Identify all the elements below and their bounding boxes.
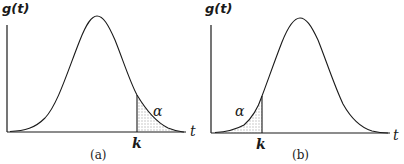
figure: g(t) t k α (a) g(t) t k α (b) [0,0,404,164]
y-axis-label: g(t) [205,1,232,16]
panel-a: g(t) t k α (a) [2,1,196,162]
alpha-label: α [235,103,245,119]
panel-b: g(t) t k α (b) [205,1,399,162]
critical-value-label: k [132,135,142,151]
panel-caption: (a) [90,148,107,162]
critical-value-label: k [256,136,266,152]
x-axis-label: t [190,123,196,139]
panel-caption: (b) [292,148,309,162]
x-axis-label: t [393,127,399,143]
y-axis-label: g(t) [2,1,29,16]
alpha-label: α [153,103,163,119]
